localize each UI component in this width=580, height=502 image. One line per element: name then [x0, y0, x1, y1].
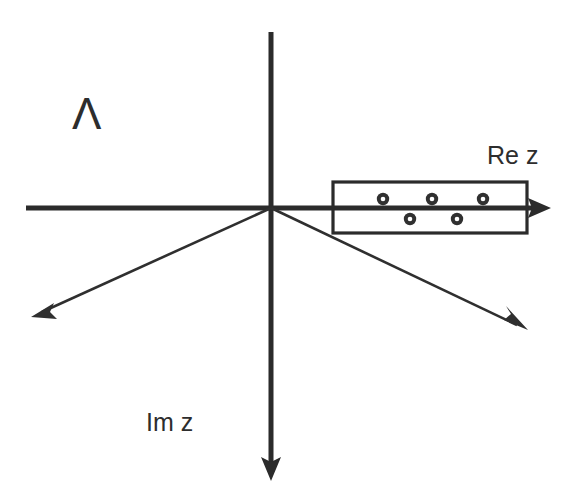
poles-below-real-axis	[404, 213, 463, 225]
pole-marker	[451, 213, 463, 225]
sector-symbol-label: Λ	[72, 92, 101, 136]
sector-ray-lower-right	[271, 208, 528, 330]
imaginary-axis-label: Im z	[146, 410, 193, 435]
pole-marker	[377, 193, 389, 205]
pole-marker	[404, 213, 416, 225]
sector-ray-lower-left	[31, 208, 271, 319]
pole-marker	[426, 193, 438, 205]
sector-ray-lower-left-arrowhead	[31, 303, 57, 319]
real-axis-label: Re z	[487, 143, 538, 168]
sector-ray-lower-right-line	[271, 208, 517, 325]
sector-ray-lower-left-line	[42, 208, 271, 312]
poles-above-real-axis	[377, 193, 489, 205]
sector-ray-lower-right-arrowhead	[504, 306, 528, 330]
pole-marker	[477, 193, 489, 205]
complex-plane-figure: Λ Re z Im z	[0, 0, 580, 502]
imaginary-axis	[261, 32, 281, 481]
figure-canvas	[0, 0, 580, 502]
